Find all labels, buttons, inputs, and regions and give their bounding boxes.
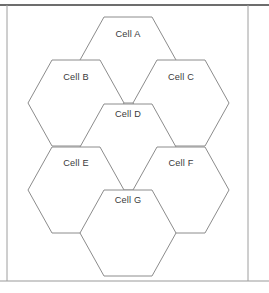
hexagon-label-g: Cell G	[115, 195, 141, 205]
hexagon-label-c: Cell C	[168, 72, 194, 82]
hexagon-label-d: Cell D	[115, 109, 141, 119]
hexagon-label-e: Cell E	[63, 158, 88, 168]
hexagon-cell-diagram: Cell ACell BCell CCell DCell ECell FCell…	[0, 0, 269, 293]
hexagon-label-a: Cell A	[116, 29, 142, 39]
diagram-canvas: Cell ACell BCell CCell DCell ECell FCell…	[0, 0, 269, 293]
hexagon-label-b: Cell B	[63, 72, 88, 82]
hexagon-label-f: Cell F	[169, 158, 194, 168]
honeycomb-layer: Cell ACell BCell CCell DCell ECell FCell…	[28, 17, 229, 276]
